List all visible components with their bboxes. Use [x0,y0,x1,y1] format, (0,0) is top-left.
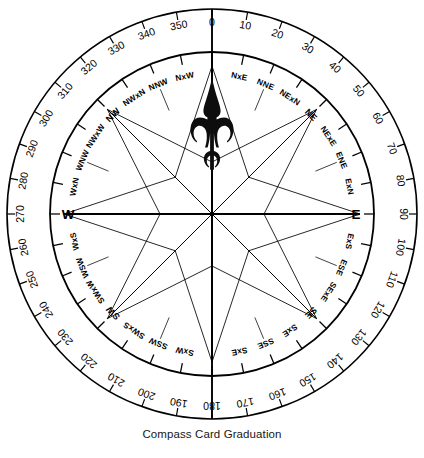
star-ray-edge [107,109,160,214]
degree-label: 210 [105,371,126,390]
compass-point-tick [53,244,63,246]
star-ray-edge [212,266,317,319]
degree-label: 190 [169,396,188,411]
cardinal-letter-e: E [351,207,360,222]
half-point-spoke [160,89,169,110]
fleur-de-lis-icon [190,78,233,170]
star-ray-edge [175,251,212,362]
compass-point-label: SxE [230,345,248,357]
degree-label: 320 [78,57,99,78]
compass-point-label: WSW [74,256,91,279]
compass-point-tick [338,124,346,130]
cardinal-letter-w: W [62,207,75,222]
compass-point-label: NNE [256,77,276,92]
compass-point-tick [97,99,104,106]
compass-point-label: NxE [230,71,248,83]
compass-point-label: SxW [175,345,195,357]
compass-point-tick [180,363,182,373]
half-point-spoke [255,317,264,338]
compass-point-tick [296,340,302,348]
star-ray-edge [249,177,360,214]
degree-label: 130 [349,327,370,348]
degree-label: 250 [23,269,40,290]
half-point-spoke [315,162,336,171]
compass-point-tick [361,182,371,184]
degree-label: 120 [369,299,388,320]
star-ray-edge [64,214,175,251]
compass-point-tick [53,182,63,184]
degree-label: 310 [55,80,76,101]
compass-point-tick [122,340,128,348]
degree-label: 100 [394,238,409,257]
compass-point-label: SSW [148,335,169,351]
compass-point-label: NWxN [121,87,147,108]
degree-label: 270 [14,205,26,223]
compass-point-label: NExE [319,124,339,148]
compass-point-tick [122,79,128,87]
degree-label: 290 [23,138,40,159]
degree-label: 90 [398,208,410,220]
half-point-spoke [255,89,264,110]
star-ray-edge [212,251,249,362]
compass-point-tick [270,64,274,73]
compass-point-tick [97,321,104,328]
compass-point-label: ENE [334,151,349,171]
half-point-spoke [87,257,108,266]
figure-caption: Compass Card Graduation [0,428,424,440]
compass-point-tick [319,99,326,106]
star-ray-edge [212,214,317,319]
star-ray-edge [107,214,212,319]
degree-label: 20 [270,26,285,41]
compass-point-label: WNW [74,148,91,172]
degree-label: 200 [136,386,157,403]
compass-point-label: WxS [68,231,80,251]
compass-point-tick [77,298,85,304]
half-point-spoke [315,257,336,266]
compass-point-tick [150,354,154,363]
compass-point-tick [352,272,361,276]
degree-label: 150 [297,371,318,390]
degree-label: 240 [36,299,55,320]
degree-label: 340 [136,25,157,42]
compass-point-label: ExS [343,233,355,251]
degree-label: 300 [36,107,55,128]
cardinal-axis-group [64,9,360,419]
degree-label: 10 [239,18,253,32]
degree-label: 280 [15,171,30,190]
compass-point-tick [180,55,182,65]
compass-point-tick [242,363,244,373]
compass-point-tick [150,64,154,73]
star-ray-edge [107,214,160,319]
compass-point-label: NxW [175,70,195,83]
degree-label: 60 [370,110,386,126]
compass-point-tick [296,79,302,87]
compass-point-label: SExE [318,280,338,303]
star-ray-edge [64,177,175,214]
degree-label: 110 [384,270,401,290]
compass-point-tick [62,152,71,156]
compass-point-tick [319,321,326,328]
degree-label: 30 [300,40,316,56]
degree-label: 50 [351,82,368,99]
degree-label: 330 [105,38,126,57]
degree-label: 230 [55,327,76,348]
compass-point-tick [242,55,244,65]
compass-point-label: ExN [343,178,355,196]
compass-point-tick [338,298,346,304]
degree-label: 160 [267,386,288,403]
compass-point-label: ESE [334,258,349,277]
half-point-spoke [87,162,108,171]
compass-point-label: SWxW [85,278,107,305]
star-ray-edge [107,266,212,319]
compass-point-tick [270,354,274,363]
star-ray-edge [249,214,360,251]
compass-point-label: NExN [278,88,302,108]
degree-label: 70 [385,141,400,156]
compass-point-label: SWxS [121,320,146,341]
compass-point-label: NWxW [84,123,106,150]
degree-label: 350 [169,17,188,32]
compass-point-label: NNW [147,77,169,93]
half-point-spoke [160,317,169,338]
compass-card-figure: 0102030405060708090100110120130140150160… [0,0,424,458]
compass-rose-diagram: 0102030405060708090100110120130140150160… [0,0,424,424]
